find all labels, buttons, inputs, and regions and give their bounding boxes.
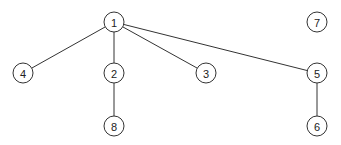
node-6: 6 (307, 116, 327, 136)
graph-diagram: 12345678 (0, 0, 341, 145)
node-label: 1 (111, 17, 117, 29)
node-3: 3 (196, 63, 216, 83)
nodes-layer: 12345678 (13, 12, 327, 136)
node-label: 4 (20, 68, 26, 80)
edges-layer (32, 24, 317, 116)
node-5: 5 (307, 63, 327, 83)
node-label: 3 (203, 68, 209, 80)
node-7: 7 (307, 12, 327, 32)
edge-1-5 (124, 24, 308, 70)
node-8: 8 (104, 116, 124, 136)
node-label: 5 (314, 68, 320, 80)
node-4: 4 (13, 63, 33, 83)
node-2: 2 (104, 63, 124, 83)
node-label: 8 (111, 121, 117, 133)
node-label: 7 (314, 17, 320, 29)
node-label: 2 (111, 68, 117, 80)
node-label: 6 (314, 121, 320, 133)
edge-1-4 (32, 27, 106, 68)
node-1: 1 (104, 12, 124, 32)
